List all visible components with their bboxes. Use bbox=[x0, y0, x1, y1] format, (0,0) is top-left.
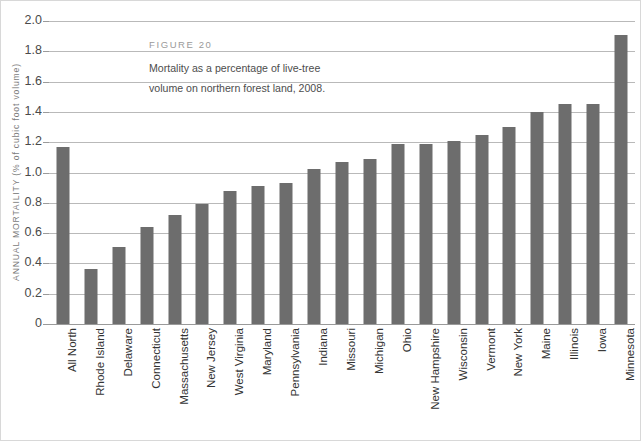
x-label-slot: Missouri bbox=[328, 324, 356, 440]
y-tick-label: 0.4 bbox=[8, 256, 42, 269]
bar[interactable] bbox=[391, 144, 404, 324]
bar[interactable] bbox=[224, 191, 237, 324]
bar[interactable] bbox=[56, 147, 69, 324]
bar[interactable] bbox=[196, 204, 209, 324]
bar-slot bbox=[495, 21, 523, 324]
x-label-slot: Delaware bbox=[105, 324, 133, 440]
bar[interactable] bbox=[447, 141, 460, 324]
x-label-slot: New Jersey bbox=[189, 324, 217, 440]
caption-line-1: Mortality as a percentage of live-tree bbox=[149, 59, 379, 79]
y-tick-label: 1.4 bbox=[8, 105, 42, 118]
bar-slot bbox=[523, 21, 551, 324]
bar-slot bbox=[412, 21, 440, 324]
bar[interactable] bbox=[615, 35, 628, 324]
bar[interactable] bbox=[419, 144, 432, 324]
x-label-slot: Michigan bbox=[356, 324, 384, 440]
bar[interactable] bbox=[475, 135, 488, 324]
bar[interactable] bbox=[308, 169, 321, 324]
bar-slot bbox=[607, 21, 635, 324]
caption-line-2: volume on northern forest land, 2008. bbox=[149, 79, 379, 99]
x-label-slot: West Virginia bbox=[216, 324, 244, 440]
figure-caption: FIGURE 20 Mortality as a percentage of l… bbox=[149, 39, 379, 98]
y-tick-label: 0.6 bbox=[8, 226, 42, 239]
x-axis-labels-group: All NorthRhode IslandDelawareConnecticut… bbox=[49, 324, 635, 440]
x-label-slot: Connecticut bbox=[133, 324, 161, 440]
bar[interactable] bbox=[587, 104, 600, 324]
y-tick-label: 1.2 bbox=[8, 135, 42, 148]
bar-slot bbox=[468, 21, 496, 324]
bar-slot bbox=[551, 21, 579, 324]
x-label-slot: All North bbox=[49, 324, 77, 440]
y-tick-label: 0 bbox=[8, 317, 42, 330]
x-label-slot: Massachusetts bbox=[161, 324, 189, 440]
x-label-slot: Illinois bbox=[551, 324, 579, 440]
x-axis-label: Minnesota bbox=[625, 328, 637, 381]
y-tick-label: 0.8 bbox=[8, 196, 42, 209]
bar[interactable] bbox=[531, 112, 544, 324]
x-label-slot: Indiana bbox=[300, 324, 328, 440]
y-tick-label: 0.2 bbox=[8, 287, 42, 300]
bar[interactable] bbox=[363, 159, 376, 324]
x-label-slot: Wisconsin bbox=[440, 324, 468, 440]
figure-container: ANNUAL MORTAILITY (% of cubic foot volum… bbox=[0, 0, 641, 441]
x-label-slot: Rhode Island bbox=[77, 324, 105, 440]
x-label-slot: Iowa bbox=[579, 324, 607, 440]
y-tick-label: 1.0 bbox=[8, 166, 42, 179]
bar-slot bbox=[579, 21, 607, 324]
y-tick-label: 1.6 bbox=[8, 75, 42, 88]
caption-figure-label: FIGURE 20 bbox=[149, 39, 379, 50]
bar[interactable] bbox=[335, 162, 348, 324]
bar[interactable] bbox=[140, 227, 153, 324]
bar[interactable] bbox=[168, 215, 181, 324]
x-label-slot: New Hampshire bbox=[412, 324, 440, 440]
bar[interactable] bbox=[503, 127, 516, 324]
bar-slot bbox=[384, 21, 412, 324]
x-label-slot: Maine bbox=[523, 324, 551, 440]
y-tick-label: 2.0 bbox=[8, 14, 42, 27]
bar-slot bbox=[440, 21, 468, 324]
x-label-slot: New York bbox=[495, 324, 523, 440]
x-label-slot: Vermont bbox=[468, 324, 496, 440]
x-label-slot: Ohio bbox=[384, 324, 412, 440]
bar[interactable] bbox=[252, 186, 265, 324]
bar[interactable] bbox=[84, 269, 97, 324]
x-label-slot: Pennsylvania bbox=[272, 324, 300, 440]
x-label-slot: Maryland bbox=[244, 324, 272, 440]
bar-slot bbox=[105, 21, 133, 324]
x-label-slot: Minnesota bbox=[607, 324, 635, 440]
bar-slot bbox=[77, 21, 105, 324]
y-tick-label: 1.8 bbox=[8, 44, 42, 57]
bar[interactable] bbox=[112, 247, 125, 324]
bar-slot bbox=[49, 21, 77, 324]
bar[interactable] bbox=[280, 183, 293, 324]
bar[interactable] bbox=[559, 104, 572, 324]
